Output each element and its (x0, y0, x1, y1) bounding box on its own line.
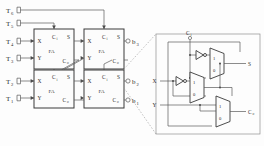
input-pin-t6[interactable] (17, 7, 23, 13)
output-label-b2: b 2 (132, 78, 139, 87)
svg-text:2: 2 (136, 82, 139, 87)
fa-br-port-co-sub: o (117, 100, 119, 104)
detail-label-x: X (153, 78, 157, 84)
input-pin-t4[interactable] (17, 38, 23, 44)
fa-br-port-ci: C (102, 74, 106, 80)
inverter-ci (196, 51, 210, 60)
svg-text:6: 6 (11, 11, 14, 16)
fa-br-port-x: X (88, 78, 92, 84)
fa-tr-port-co: C (113, 58, 117, 64)
input-label-t2: T 2 (6, 78, 14, 87)
fa-br-port-s: S (117, 74, 120, 80)
input-label-t1: T 1 (6, 95, 14, 104)
fa-tl-port-co-sub: o (67, 61, 69, 65)
svg-text:b: b (132, 78, 136, 86)
fa-tl-port-s: S (67, 34, 70, 40)
svg-text:1: 1 (11, 99, 14, 104)
svg-text:i: i (190, 33, 191, 37)
mux-carry[interactable]: 1 0 (200, 88, 246, 128)
detail-label-ci: C i (186, 30, 191, 37)
fa-block-top-right[interactable]: X Y C i S C o FA (84, 29, 124, 69)
fa-tl-port-x: X (38, 38, 42, 44)
fa-tr-name: FA (99, 49, 105, 54)
fa-block-bottom-left[interactable]: X Y C i S C o FA (34, 70, 74, 108)
input-label-t4: T 4 (6, 38, 14, 47)
svg-text:b: b (132, 38, 136, 46)
input-label-t3: T 3 (6, 55, 14, 64)
svg-text:2: 2 (11, 82, 14, 87)
detail-label-y: Y (153, 102, 157, 108)
fa-tl-port-y: Y (38, 55, 42, 61)
svg-text:4: 4 (11, 42, 14, 47)
svg-text:o: o (252, 112, 254, 116)
figure-canvas: X Y C i S C o FA X Y C i S C o FA X Y C … (0, 0, 264, 146)
output-label-b1: b 1 (132, 97, 139, 106)
fa-tr-port-co-sub: o (117, 61, 119, 65)
input-pin-t5[interactable] (17, 20, 23, 26)
fa-br-port-ci-sub: i (106, 78, 107, 82)
output-pin-b3[interactable] (124, 39, 130, 43)
svg-text:5: 5 (11, 24, 14, 29)
fa-tr-port-x: X (88, 38, 92, 44)
mux-sum[interactable]: 1 0 (210, 48, 246, 79)
fa-bl-port-ci-sub: i (56, 78, 57, 82)
fa-br-name: FA (99, 89, 105, 94)
fa-bl-port-co: C (63, 97, 67, 103)
fa-tr-port-ci: C (102, 34, 106, 40)
inverter-x (176, 77, 190, 86)
svg-text:3: 3 (136, 42, 139, 47)
output-pin-b2[interactable] (124, 79, 130, 83)
svg-text:3: 3 (11, 59, 14, 64)
output-label-b3: b 3 (132, 38, 139, 47)
svg-text:C: C (248, 109, 252, 115)
fa-br-port-y: Y (88, 95, 92, 101)
input-pin-t3[interactable] (17, 55, 23, 61)
svg-text:b: b (132, 97, 136, 105)
input-labels: T 6 T 5 T 4 T 3 T 2 T 1 (6, 7, 14, 104)
input-label-t6: T 6 (6, 7, 14, 16)
svg-text:C: C (186, 30, 190, 36)
schematic-svg: X Y C i S C o FA X Y C i S C o FA X Y C … (0, 0, 264, 146)
fa-br-port-co: C (113, 97, 117, 103)
fa-tl-port-ci-sub: i (56, 37, 57, 41)
detail-label-co: C o (248, 109, 254, 116)
output-labels: b 3 b 2 b 1 (132, 38, 139, 106)
fa-block-top-left[interactable]: X Y C i S C o FA (34, 29, 74, 69)
fa-detail-panel: 1 0 1 0 (156, 34, 260, 134)
svg-text:1: 1 (136, 101, 139, 106)
fa-bl-port-s: S (67, 74, 70, 80)
fa-block-bottom-right[interactable]: X Y C i S C o FA (84, 70, 124, 108)
output-pin-b1[interactable] (124, 98, 130, 102)
fa-tl-name: FA (49, 49, 55, 54)
fa-bl-port-y: Y (38, 95, 42, 101)
input-pin-t1[interactable] (17, 95, 23, 101)
fa-bl-port-ci: C (52, 74, 56, 80)
input-pin-t2[interactable] (17, 78, 23, 84)
detail-y-net (160, 104, 216, 111)
output-pins (124, 39, 130, 102)
input-label-t5: T 5 (6, 20, 14, 29)
fa-tr-port-s: S (117, 34, 120, 40)
callout-lines (124, 34, 156, 134)
fa-bl-name: FA (49, 89, 55, 94)
fa-tr-port-ci-sub: i (106, 37, 107, 41)
fa-tl-port-ci: C (52, 34, 56, 40)
fa-tr-port-y: Y (88, 55, 92, 61)
fa-tl-port-co: C (63, 58, 67, 64)
input-pins (17, 7, 23, 101)
fa-bl-port-co-sub: o (67, 100, 69, 104)
detail-label-s: S (248, 61, 251, 67)
fa-bl-port-x: X (38, 78, 42, 84)
